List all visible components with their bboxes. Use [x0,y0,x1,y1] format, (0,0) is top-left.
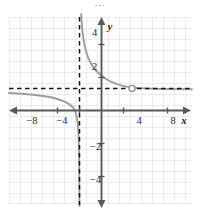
x-tick-label--8: −8 [26,115,37,126]
x-axis-label: x [180,114,187,126]
y-axis-arrow-down [98,200,106,208]
open-circle-hole [129,85,135,91]
y-tick-label--4: −4 [90,174,102,185]
x-axis-arrow-left [9,107,17,115]
y-tick-label--2: −2 [90,141,101,152]
x-tick-label-4: 4 [136,115,142,126]
y-axis-arrow-up [98,17,106,25]
x-tick-label--4: −4 [56,115,68,126]
y-tick-label-2: 2 [92,61,97,72]
y-axis-label: y [106,20,113,32]
x-tick-label-8: 8 [170,115,175,126]
graph-figure: −8 −4 4 8 4 2 −2 −4 x y [0,0,200,211]
y-tick-label-4: 4 [92,27,98,38]
